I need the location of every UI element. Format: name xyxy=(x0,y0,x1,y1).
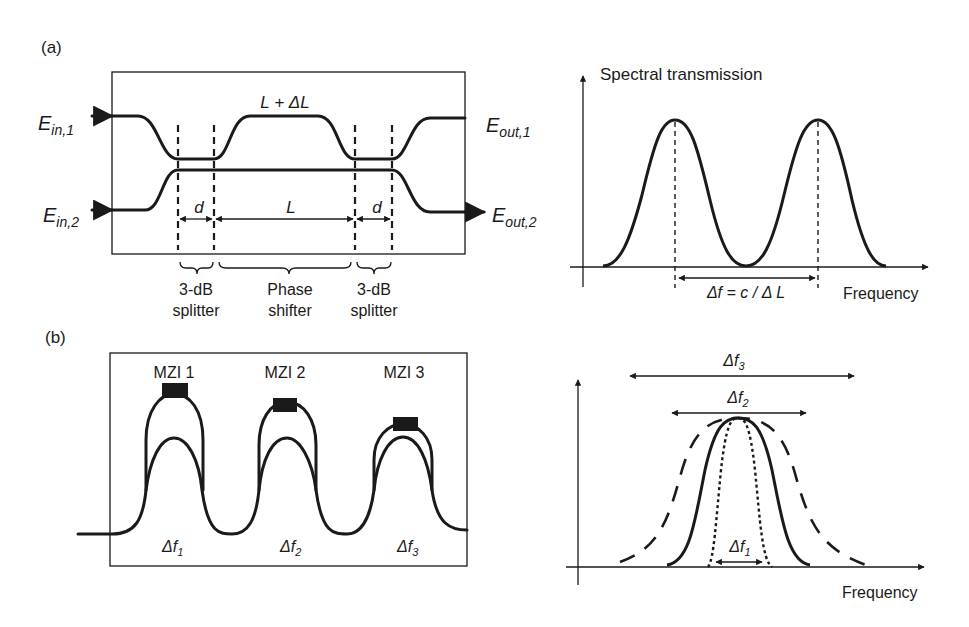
y-axis-label: Spectral transmission xyxy=(600,65,763,84)
panel-a-label: (a) xyxy=(41,38,62,57)
df3-label: Δf3 xyxy=(722,352,745,372)
stage-bandwidth: Δf2 xyxy=(279,538,301,558)
output-2-label: Eout,2 xyxy=(492,204,537,230)
brace-splitter-right xyxy=(357,262,391,274)
mzi-1-upper-arm xyxy=(146,394,203,490)
l-label: L xyxy=(286,198,295,217)
stage-bandwidth: Δf1 xyxy=(161,538,183,558)
d-right-label: d xyxy=(372,198,382,217)
df1-label: Δf1 xyxy=(728,538,750,558)
heater-2-icon xyxy=(273,398,297,412)
bandwidth-comparison-plot: Frequency Δf3 Δf2 Δf1 xyxy=(566,352,924,601)
section-label-line1: 3-dB xyxy=(179,281,213,298)
mzi-2-upper-arm xyxy=(259,402,316,490)
section-label-line2: shifter xyxy=(268,302,312,319)
brace-splitter-left xyxy=(180,262,213,274)
spectral-transmission-plot: Spectral transmission Frequency Δf = c /… xyxy=(570,65,928,302)
cascaded-mzi-schematic: MZI 1 MZI 2 MZI 3 Δf1 Δf2 Δf3 xyxy=(78,353,467,566)
lower-waveguide xyxy=(78,437,467,534)
mzi-schematic: d L d L + ΔL 3-dB splitter Phase shifter… xyxy=(38,72,537,319)
stage-name: MZI 1 xyxy=(154,364,195,381)
output-1-label: Eout,1 xyxy=(486,114,530,140)
panel-b-label: (b) xyxy=(45,328,66,347)
stage-name: MZI 2 xyxy=(265,364,306,381)
heater-1-icon xyxy=(162,383,188,398)
section-label-line1: Phase xyxy=(267,281,312,298)
df2-label: Δf2 xyxy=(726,389,748,409)
upper-arm-label: L + ΔL xyxy=(260,93,309,112)
brace-phase-shifter xyxy=(219,262,351,274)
fsr-label: Δf = c / Δ L xyxy=(706,284,785,301)
transmission-curve xyxy=(603,120,886,266)
stage-name: MZI 3 xyxy=(384,364,425,381)
stage-bandwidth: Δf3 xyxy=(396,538,419,558)
upper-waveguide xyxy=(112,116,465,159)
d-left-label: d xyxy=(194,198,204,217)
section-label-line1: 3-dB xyxy=(357,281,391,298)
mzi-figure: (a) d L d L + ΔL 3-dB splitter Phase shi… xyxy=(0,0,969,627)
input-1-label: Ein,1 xyxy=(38,112,74,138)
x-axis-label: Frequency xyxy=(842,584,918,601)
heater-3-icon xyxy=(393,417,418,431)
x-axis-label: Frequency xyxy=(843,285,919,302)
section-label-line2: splitter xyxy=(350,302,398,319)
section-label-line2: splitter xyxy=(172,302,220,319)
input-2-label: Ein,2 xyxy=(43,204,79,230)
